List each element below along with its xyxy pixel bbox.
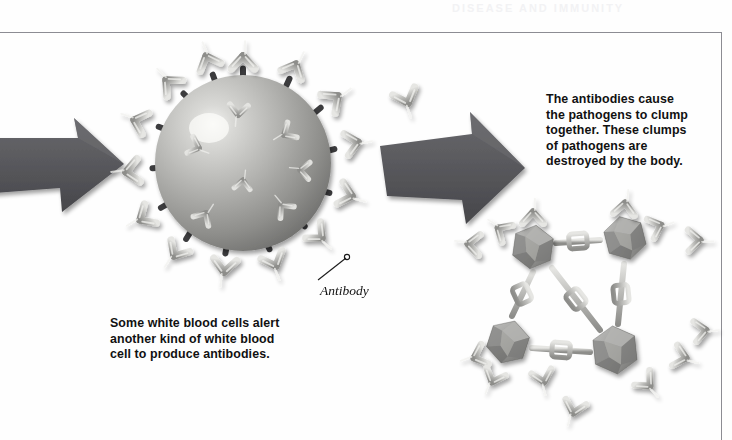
pathogen: [511, 223, 555, 272]
free-antibody: [393, 87, 425, 123]
pathogen-sphere-group: [108, 37, 376, 290]
arrow-left: [0, 118, 124, 212]
pathogen: [601, 212, 649, 264]
illustration-layer: [0, 0, 732, 440]
pathogen-clump-group: [452, 187, 722, 431]
caption-left-text: Some white blood cells alert another kin…: [110, 316, 279, 363]
antibody-leader: [318, 254, 350, 280]
antibody-label: Antibody: [320, 283, 369, 299]
pathogen-body: [155, 75, 331, 251]
figure-canvas: DISEASE AND IMMUNITY: [0, 0, 732, 440]
pathogen: [483, 315, 533, 369]
caption-right-text: The antibodies cause the pathogens to cl…: [546, 92, 688, 170]
arrow-middle: [380, 112, 525, 224]
